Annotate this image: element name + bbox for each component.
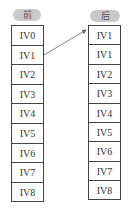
shift-arrow-icon <box>0 0 130 211</box>
